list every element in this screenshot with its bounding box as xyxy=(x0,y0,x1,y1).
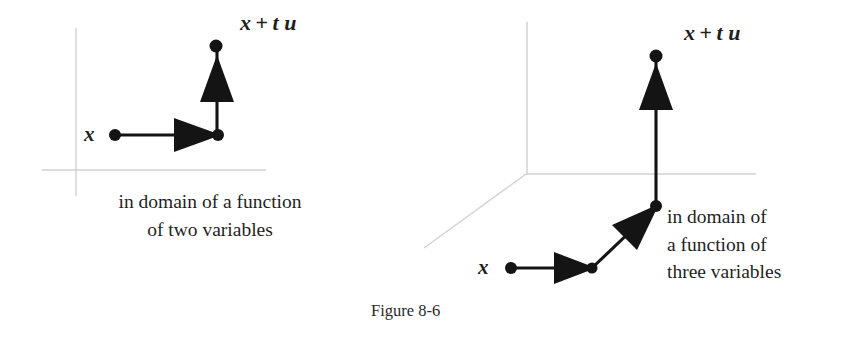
left-panel-axes xyxy=(42,28,266,196)
right-panel-vectors xyxy=(505,50,673,285)
right-end-label-plus: + xyxy=(700,20,713,45)
right-end-label-u: u xyxy=(728,20,741,45)
right-end-label-t: t xyxy=(717,20,724,45)
left-start-point-label: x xyxy=(84,124,95,145)
right-caption-line-1: in domain of xyxy=(667,203,837,231)
left-caption-line-2: of two variables xyxy=(95,216,325,244)
right-panel-caption: in domain of a function of three variabl… xyxy=(667,203,837,286)
left-end-label-t: t xyxy=(273,10,280,35)
left-end-label-u: u xyxy=(284,10,297,35)
right-corner1-point-dot xyxy=(587,263,598,274)
left-end-label-x: x xyxy=(240,10,252,35)
left-start-point-dot xyxy=(109,129,121,141)
figure-8-6: x x+tu in domain of a function of two va… xyxy=(0,0,852,346)
figure-vector-graphics xyxy=(0,0,852,346)
left-corner-point-dot xyxy=(212,129,224,141)
left-caption-line-1: in domain of a function xyxy=(95,188,325,216)
left-end-label-plus: + xyxy=(256,10,269,35)
left-end-point-label: x+tu xyxy=(240,12,297,34)
right-caption-line-3: three variables xyxy=(667,258,837,286)
figure-caption: Figure 8-6 xyxy=(371,303,440,320)
right-end-label-x: x xyxy=(684,20,696,45)
left-panel-caption: in domain of a function of two variables xyxy=(95,188,325,243)
right-end-point-dot xyxy=(650,50,663,63)
right-start-point-dot xyxy=(505,262,517,274)
right-start-point-label: x xyxy=(478,257,489,278)
right-end-point-label: x+tu xyxy=(684,22,741,44)
right-depth-axis xyxy=(424,174,526,248)
left-vertical-arrowhead xyxy=(200,55,234,102)
right-caption-line-2: a function of xyxy=(667,231,837,259)
left-panel-vectors xyxy=(109,40,234,153)
right-vertical-arrowhead xyxy=(639,63,673,110)
left-end-point-dot xyxy=(210,40,223,53)
right-corner2-point-dot xyxy=(650,200,662,212)
